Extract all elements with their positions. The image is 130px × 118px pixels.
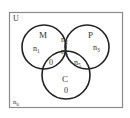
set-p-label: P — [88, 30, 93, 40]
region-outside: n6 — [13, 98, 20, 107]
region-p-and-c: n5 — [74, 58, 81, 68]
venn-diagram: U M P C n1 n2 n3 n4 n5 0 0 n6 — [0, 0, 130, 118]
set-m-label: M — [39, 30, 47, 40]
set-c-label: C — [62, 74, 68, 84]
region-p-only: n3 — [93, 43, 100, 53]
region-c-only: 0 — [64, 86, 68, 95]
region-m-and-c: 0 — [49, 58, 53, 67]
universe-label: U — [13, 14, 19, 23]
region-all-three: n4 — [61, 47, 68, 57]
region-m-only: n1 — [33, 44, 40, 54]
